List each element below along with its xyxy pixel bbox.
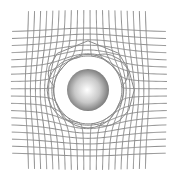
- horizontal-grid-line: [11, 118, 166, 129]
- vertical-grid-line: [30, 11, 34, 169]
- horizontal-grid-line: [12, 153, 165, 156]
- horizontal-grid-line: [12, 34, 166, 38]
- horizontal-grid-line: [12, 28, 166, 31]
- vertical-grid-line: [25, 11, 28, 168]
- horizontal-grid-line: [11, 111, 167, 126]
- vertical-grid-line: [115, 10, 126, 169]
- gravity-grid-diagram: [0, 0, 179, 180]
- vertical-grid-line: [145, 11, 149, 168]
- horizontal-grid-line: [12, 45, 167, 53]
- vertical-grid-line: [127, 11, 134, 169]
- vertical-grid-line: [139, 11, 143, 169]
- horizontal-grid-line: [12, 146, 166, 150]
- vertical-grid-line: [40, 11, 46, 169]
- horizontal-grid-line: [12, 139, 166, 144]
- sphere: [67, 69, 109, 111]
